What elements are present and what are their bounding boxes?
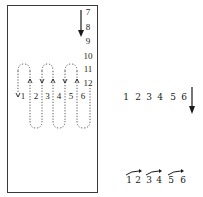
middle-number-6: 6 <box>181 93 187 102</box>
serpentine-dotted-path <box>18 64 90 128</box>
column-number-7: 7 <box>86 8 91 17</box>
column-number-10: 10 <box>84 52 93 60</box>
row-number-6: 6 <box>81 92 86 101</box>
column-number-12: 12 <box>84 79 93 87</box>
bottom-number-2: 2 <box>135 176 141 185</box>
bottom-number-3: 3 <box>146 176 152 185</box>
middle-number-1: 1 <box>123 93 129 102</box>
row-number-3: 3 <box>45 92 50 101</box>
middle-number-3: 3 <box>146 93 152 102</box>
column-number-8: 8 <box>86 23 91 32</box>
row-number-1: 1 <box>21 92 26 101</box>
down-arrow-icon <box>78 10 84 37</box>
row-number-4: 4 <box>57 92 62 101</box>
bottom-number-4: 4 <box>156 176 162 185</box>
middle-number-5: 5 <box>170 93 176 102</box>
row-number-5: 5 <box>69 92 74 101</box>
column-number-11: 11 <box>84 65 93 73</box>
right-down-arrow-icon <box>189 87 195 114</box>
middle-number-4: 4 <box>157 93 163 102</box>
down-arrowhead-icon <box>16 93 20 97</box>
bottom-number-1: 1 <box>126 176 132 185</box>
bottom-number-5: 5 <box>168 176 174 185</box>
column-number-9: 9 <box>86 37 91 46</box>
middle-number-2: 2 <box>135 93 141 102</box>
bottom-number-6: 6 <box>180 176 186 185</box>
row-number-2: 2 <box>34 92 39 101</box>
